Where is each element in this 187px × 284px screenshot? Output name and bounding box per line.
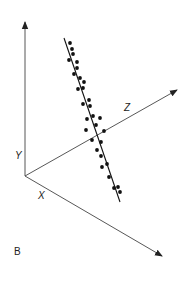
data-point (67, 58, 71, 62)
data-point (90, 138, 94, 142)
data-point (85, 117, 89, 121)
data-point (82, 80, 86, 84)
data-point (99, 140, 103, 144)
z-axis-label: Z (123, 102, 131, 113)
panel-label: B (14, 246, 21, 257)
data-point (88, 104, 92, 108)
data-point (116, 185, 120, 189)
x-axis (25, 176, 162, 256)
data-point (76, 87, 80, 91)
scatter-3d-figure: Y X Z B (0, 0, 187, 284)
data-point (95, 148, 99, 152)
data-point (118, 190, 122, 194)
data-point (84, 128, 88, 132)
data-point (105, 162, 109, 166)
z-axis (25, 90, 177, 176)
data-point (75, 60, 79, 64)
data-point (91, 114, 95, 118)
data-point (102, 129, 106, 133)
data-point (72, 72, 76, 76)
regression-fit-line (64, 38, 120, 202)
axes-group (25, 22, 177, 256)
data-point (68, 41, 72, 45)
x-axis-label: X (37, 190, 45, 201)
data-points (67, 41, 122, 194)
data-point (70, 47, 74, 51)
data-point (78, 76, 82, 80)
data-point (81, 86, 85, 90)
data-point (107, 175, 111, 179)
data-point (94, 123, 98, 127)
data-point (99, 154, 103, 158)
data-point (75, 66, 79, 70)
data-point (100, 165, 104, 169)
data-point (98, 116, 102, 120)
data-point (81, 102, 85, 106)
y-axis-label: Y (15, 150, 23, 161)
data-point (71, 52, 75, 56)
data-point (87, 98, 91, 102)
data-point (112, 186, 116, 190)
